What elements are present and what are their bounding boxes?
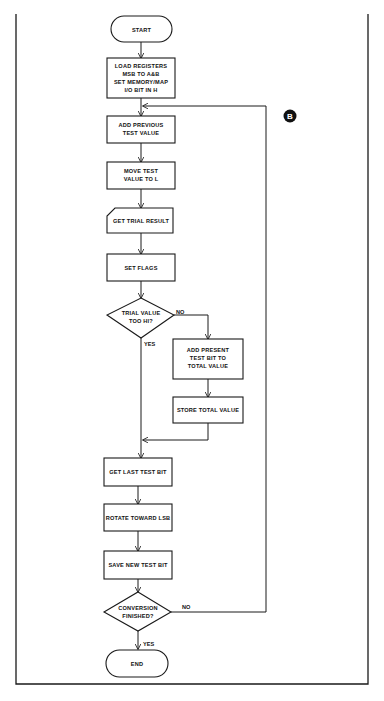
trial-value-decision: TRIAL VALUE TOO HI? xyxy=(107,298,174,338)
end-terminator: END xyxy=(106,650,168,677)
save-new-label: SAVE NEW TEST BIT xyxy=(108,562,168,568)
marker-b-badge: B xyxy=(284,110,297,123)
add-previous-line-1: ADD PREVIOUS xyxy=(119,122,164,128)
move-test-box: MOVE TEST VALUE TO L xyxy=(107,162,175,189)
save-new-box: SAVE NEW TEST BIT xyxy=(104,551,172,579)
set-flags-box: SET FLAGS xyxy=(107,254,175,281)
start-label: START xyxy=(132,27,152,33)
flowchart-diagram: START LOAD REGISTERS MSB TO A&B SET MEMO… xyxy=(0,0,384,701)
get-trial-result-label: GET TRIAL RESULT xyxy=(113,218,170,224)
rotate-box: ROTATE TOWARD LSB xyxy=(104,504,172,531)
load-registers-line-4: I/O BIT IN H xyxy=(124,87,157,93)
add-present-line-3: TOTAL VALUE xyxy=(188,363,228,369)
store-total-box: STORE TOTAL VALUE xyxy=(173,397,243,423)
get-trial-result-input: GET TRIAL RESULT xyxy=(107,208,173,233)
load-registers-line-1: LOAD REGISTERS xyxy=(115,63,168,69)
conversion-no-label: NO xyxy=(182,604,191,610)
move-test-line-1: MOVE TEST xyxy=(124,168,159,174)
start-terminator: START xyxy=(111,16,172,42)
move-test-line-2: VALUE TO L xyxy=(124,176,159,182)
trial-no-label: NO xyxy=(176,309,185,315)
load-registers-line-3: SET MEMORY/MAP xyxy=(114,79,168,85)
conversion-decision: CONVERSION FINISHED? xyxy=(104,592,171,631)
marker-b-label: B xyxy=(287,112,293,121)
trial-yes-label: YES xyxy=(144,341,155,347)
set-flags-label: SET FLAGS xyxy=(124,265,157,271)
get-last-label: GET LAST TEST BIT xyxy=(109,469,167,475)
trial-decision-line-2: TOO HI? xyxy=(129,318,153,324)
conversion-line-1: CONVERSION xyxy=(118,605,158,611)
rotate-label: ROTATE TOWARD LSB xyxy=(106,515,171,521)
conversion-yes-label: YES xyxy=(143,641,154,647)
load-registers-box: LOAD REGISTERS MSB TO A&B SET MEMORY/MAP… xyxy=(107,58,175,98)
get-last-test-bit-box: GET LAST TEST BIT xyxy=(104,458,172,486)
add-previous-box: ADD PREVIOUS TEST VALUE xyxy=(107,116,175,143)
trial-decision-line-1: TRIAL VALUE xyxy=(122,310,161,316)
end-label: END xyxy=(131,661,143,667)
conversion-line-2: FINISHED? xyxy=(122,613,154,619)
store-total-label: STORE TOTAL VALUE xyxy=(177,407,239,413)
add-previous-line-2: TEST VALUE xyxy=(123,130,159,136)
add-present-line-1: ADD PRESENT xyxy=(187,347,230,353)
add-present-line-2: TEST BIT TO xyxy=(190,355,227,361)
add-present-box: ADD PRESENT TEST BIT TO TOTAL VALUE xyxy=(173,339,243,379)
load-registers-line-2: MSB TO A&B xyxy=(122,71,159,77)
